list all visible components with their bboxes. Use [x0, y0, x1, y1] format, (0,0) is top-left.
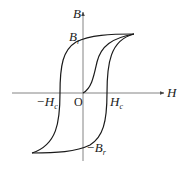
hysteresis-diagram: B H O Br −Br Hc −Hc [0, 0, 177, 171]
remanence-pos-label: Br [69, 29, 81, 46]
h-axis-label: H [166, 85, 177, 100]
coercivity-neg-label: −Hc [36, 94, 58, 111]
initial-magnetization-curve [83, 34, 134, 93]
remanence-neg-label: −Br [86, 140, 107, 157]
coercivity-pos-label: Hc [109, 94, 123, 111]
origin-label: O [74, 95, 83, 109]
b-axis-label: B [73, 6, 81, 21]
